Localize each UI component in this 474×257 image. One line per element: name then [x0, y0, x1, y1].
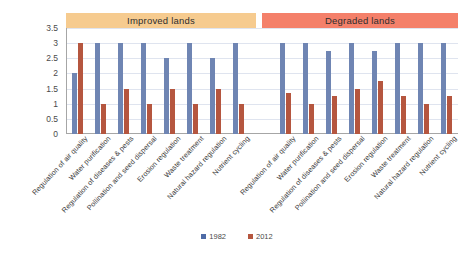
bar-2012: [78, 43, 83, 134]
bar-group: [326, 28, 349, 134]
bar-2012: [216, 89, 221, 134]
bar-2012: [147, 104, 152, 134]
y-axis-tick-label: 1.5: [46, 84, 58, 94]
chart-legend: 1982 2012: [0, 232, 474, 241]
panel-banner-improved-lands: Improved lands: [66, 13, 256, 28]
bar-2012: [378, 81, 383, 134]
bar-1982: [395, 43, 400, 134]
bar-1982: [210, 58, 215, 134]
y-axis-tick-label: 0.5: [46, 114, 58, 124]
bar-1982: [95, 43, 100, 134]
bar-group: [280, 28, 303, 134]
bar-1982: [233, 43, 238, 134]
y-axis-tick-label: 2.5: [46, 53, 58, 63]
y-axis-tick-label: 3.5: [46, 23, 58, 33]
y-axis: 3.532.521.510.50: [0, 28, 62, 134]
legend-item-2012: 2012: [248, 232, 273, 241]
bar-2012: [239, 104, 244, 134]
y-axis-tick-label: 3: [53, 38, 58, 48]
bar-1982: [326, 51, 331, 134]
y-axis-tick-label: 2: [53, 68, 58, 78]
bar-group: [303, 28, 326, 134]
bar-1982: [187, 43, 192, 134]
bar-2012: [424, 104, 429, 134]
bar-group: [372, 28, 395, 134]
bar-group: [349, 28, 372, 134]
bar-group: [164, 28, 187, 134]
bar-2012: [193, 104, 198, 134]
bar-group: [395, 28, 418, 134]
bar-1982: [118, 43, 123, 134]
panel-banner-degraded-lands: Degraded lands: [262, 13, 458, 28]
bar-group: [418, 28, 441, 134]
bar-1982: [418, 43, 423, 134]
bar-2012: [286, 93, 291, 134]
bar-1982: [441, 43, 446, 134]
bar-1982: [72, 73, 77, 134]
bar-series-container: [67, 28, 458, 134]
legend-label-1982: 1982: [209, 232, 226, 241]
bar-1982: [164, 58, 169, 134]
bar-chart: Improved lands Degraded lands 3.532.521.…: [0, 0, 474, 257]
bar-1982: [141, 43, 146, 134]
legend-swatch-2012: [248, 234, 253, 239]
legend-item-1982: 1982: [201, 232, 226, 241]
bar-group: [72, 28, 95, 134]
bar-2012: [355, 89, 360, 134]
plot-area: [66, 28, 458, 134]
bar-group: [95, 28, 118, 134]
legend-swatch-1982: [201, 234, 206, 239]
bar-1982: [372, 51, 377, 134]
bar-group: [233, 28, 256, 134]
x-axis-labels: Regulation of air qualityWater purificat…: [0, 134, 474, 226]
bar-2012: [170, 89, 175, 134]
bar-2012: [447, 96, 452, 134]
bar-group: [118, 28, 141, 134]
bar-group: [441, 28, 464, 134]
bar-group: [141, 28, 164, 134]
y-axis-tick-label: 1: [53, 99, 58, 109]
bar-1982: [349, 43, 354, 134]
bar-group: [210, 28, 233, 134]
bar-1982: [303, 43, 308, 134]
bar-1982: [280, 43, 285, 134]
bar-2012: [101, 104, 106, 134]
bar-2012: [124, 89, 129, 134]
bar-group: [187, 28, 210, 134]
bar-2012: [309, 104, 314, 134]
bar-2012: [332, 96, 337, 134]
bar-2012: [401, 96, 406, 134]
legend-label-2012: 2012: [256, 232, 273, 241]
